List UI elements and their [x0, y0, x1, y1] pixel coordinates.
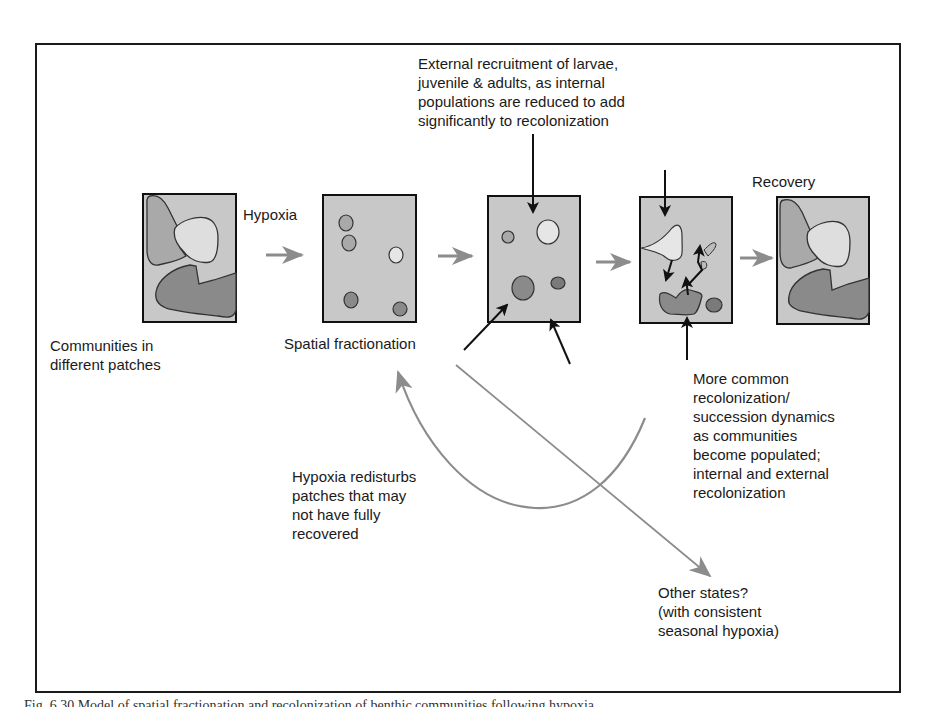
label-redisturb: Hypoxia redisturbs patches that may not …: [292, 467, 416, 543]
label-succession: More common recolonization/ succession d…: [693, 369, 835, 502]
arrow-recruit-left: [464, 305, 507, 350]
panel-recovery: [777, 197, 869, 324]
panel-external-recruitment: [488, 196, 580, 322]
label-external-recruitment: External recruitment of larvae, juvenile…: [418, 54, 625, 130]
label-recovery: Recovery: [752, 172, 815, 191]
label-other-states: Other states? (with consistent seasonal …: [658, 583, 779, 640]
panel-succession: [640, 197, 732, 323]
arrow-other-states: [456, 365, 710, 576]
panel-communities: [143, 194, 236, 322]
arrow-recruit-bottom: [551, 320, 570, 364]
arrow-redisturb-curve: [398, 372, 645, 508]
label-spatial-fractionation: Spatial fractionation: [284, 334, 416, 353]
panel-fractionation: [323, 195, 416, 322]
label-hypoxia: Hypoxia: [243, 205, 297, 224]
label-communities: Communities in different patches: [50, 336, 161, 374]
